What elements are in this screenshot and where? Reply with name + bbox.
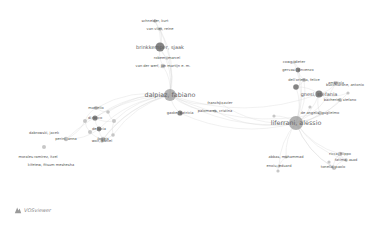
author-node[interactable] (272, 114, 275, 117)
author-label[interactable]: kifetew, fitsum meshesha (28, 163, 74, 167)
author-label[interactable]: van der werf, jan martijn e. m. (136, 64, 191, 68)
author-label[interactable]: de lucia (92, 127, 106, 131)
author-node[interactable] (327, 160, 330, 163)
vosviewer-logo-icon (14, 206, 22, 214)
author-node[interactable] (111, 133, 115, 137)
author-label[interactable]: schneider, kurt (141, 19, 168, 23)
author-label[interactable]: di rocco (88, 116, 102, 120)
author-node[interactable] (106, 110, 110, 114)
author-node[interactable] (308, 105, 311, 108)
author-label[interactable]: morales-ramirez, itzel (18, 155, 57, 159)
author-label[interactable]: dabrowski, jacek (29, 131, 59, 135)
network-edge (160, 47, 171, 95)
author-label[interactable]: gaoke, patricia (167, 111, 194, 115)
author-node[interactable] (293, 84, 299, 90)
author-label[interactable]: dell'orletta, felice (288, 78, 319, 82)
author-label[interactable]: brinkkemper, sjaak (136, 44, 184, 50)
network-edge (113, 95, 170, 135)
author-label[interactable]: fatima, asad (335, 158, 357, 162)
author-label[interactable]: van vliet, reine (147, 27, 174, 31)
network-edge (296, 123, 340, 154)
author-label[interactable]: perini, anna (55, 137, 77, 141)
author-label[interactable]: wolf, daniel (92, 139, 113, 143)
author-node[interactable] (42, 145, 46, 149)
author-label[interactable]: robeer, marcel (154, 56, 180, 60)
network-edge (66, 95, 170, 139)
author-label[interactable]: gervasi, vincenzo (282, 68, 313, 72)
author-label[interactable]: franch, xavier (208, 101, 233, 105)
vosviewer-logo[interactable]: VOSviewer (14, 205, 51, 215)
author-label[interactable]: dalpiaz, fabiano (145, 92, 196, 99)
author-node[interactable] (276, 169, 279, 172)
network-edge (296, 123, 333, 167)
network-edge (103, 95, 170, 139)
author-label[interactable]: liferrani, alessio (271, 120, 322, 127)
author-label[interactable]: marcello (88, 106, 103, 110)
author-label[interactable]: enoiu, eduard (267, 164, 292, 168)
logo-label: VOSviewer (24, 207, 51, 213)
author-node[interactable] (112, 119, 116, 123)
network-edge (170, 95, 320, 119)
author-label[interactable]: bucchiarone, antonio (326, 83, 364, 87)
author-node[interactable] (346, 91, 349, 94)
author-label[interactable]: palomares, cristina (198, 109, 232, 113)
author-label[interactable]: ricca, filippo (329, 152, 351, 156)
author-node[interactable] (83, 119, 87, 123)
author-label[interactable]: bacherini, stefano (324, 98, 356, 102)
author-label[interactable]: tonella, paolo (321, 165, 345, 169)
author-label[interactable]: cowg, dieter (283, 60, 305, 64)
author-label[interactable]: abbas, muhammad (269, 155, 304, 159)
author-label[interactable]: gnesi, stefania (301, 91, 338, 97)
author-label[interactable]: de angelis, guglielmo (301, 111, 340, 115)
